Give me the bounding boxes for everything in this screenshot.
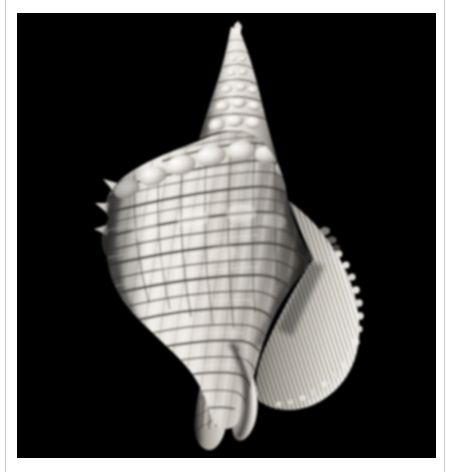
page-rule-right	[444, 0, 445, 472]
page-canvas: seashell Monochrome studio photograph of…	[0, 0, 452, 472]
shell-illustration	[17, 13, 436, 458]
page-rule-left	[5, 0, 6, 472]
shell-photograph	[17, 13, 436, 458]
